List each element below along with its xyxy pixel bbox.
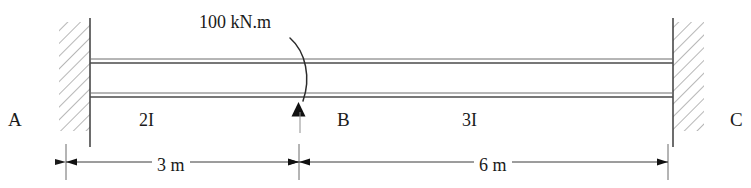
section-label-2I: 2I xyxy=(139,111,154,129)
fixed-support-C xyxy=(673,18,704,147)
beam-diagram-figure: A B C 2I 3I 3 m 6 m 100 kN.m xyxy=(0,0,751,188)
node-label-B: B xyxy=(337,110,350,129)
beam-diagram-canvas xyxy=(0,0,751,188)
fixed-support-A xyxy=(59,18,90,147)
dimension-label-3m: 3 m xyxy=(152,156,190,174)
moment-load-arrow xyxy=(290,38,307,117)
node-label-C: C xyxy=(730,110,743,129)
section-label-3I: 3I xyxy=(462,111,477,129)
node-label-A: A xyxy=(8,110,22,129)
beam-member xyxy=(90,59,673,97)
dimension-label-6m: 6 m xyxy=(474,156,512,174)
moment-load-label: 100 kN.m xyxy=(199,13,271,31)
